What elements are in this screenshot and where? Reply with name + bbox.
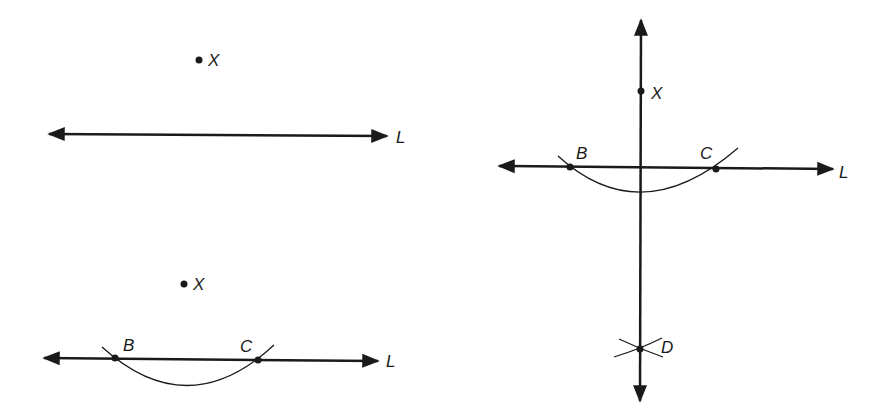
- point-c: [255, 357, 262, 364]
- point-x: [638, 88, 645, 95]
- label-d: D: [661, 338, 673, 357]
- label-x: X: [192, 275, 205, 294]
- point-c: [713, 166, 720, 173]
- line-l: [44, 358, 378, 361]
- point-b: [112, 355, 119, 362]
- panel-step2: X B C L: [44, 275, 395, 386]
- label-x: X: [650, 84, 663, 103]
- point-b: [567, 164, 574, 171]
- label-c: C: [700, 144, 713, 163]
- line-l: [499, 166, 833, 169]
- label-l: L: [396, 128, 405, 147]
- label-c: C: [240, 337, 253, 356]
- point-x: [196, 57, 203, 64]
- label-l: L: [386, 352, 395, 371]
- point-x: [181, 281, 188, 288]
- panel-step1: X L: [49, 51, 405, 147]
- label-l: L: [839, 163, 848, 182]
- panel-step3: X B C L D: [499, 20, 848, 401]
- perpendicular-line: [640, 20, 641, 401]
- label-b: B: [576, 144, 587, 163]
- point-d: [637, 346, 644, 353]
- construction-diagram: X L X B C L X B C L D: [0, 0, 893, 420]
- label-b: B: [123, 336, 134, 355]
- label-x: X: [207, 51, 220, 70]
- line-l: [49, 134, 387, 136]
